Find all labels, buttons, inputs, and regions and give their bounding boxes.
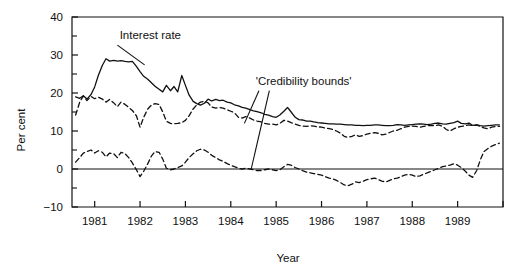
x-tick-label: 1984 [218, 215, 244, 227]
x-axis-title: Year [276, 252, 299, 264]
x-tick-label: 1989 [445, 215, 471, 227]
x-tick-label: 1983 [173, 215, 199, 227]
x-tick-label: 1985 [263, 215, 289, 227]
y-axis-tick-labels: −10010203040 [43, 11, 63, 213]
chart-container: −10010203040 198119821983198419851986198… [0, 0, 517, 270]
annotation-interest-rate: Interest rate [120, 29, 181, 41]
y-tick-label: 10 [50, 125, 63, 137]
y-tick-label: 40 [50, 11, 63, 23]
annotation-credibility-bounds: 'Credibility bounds' [256, 75, 352, 87]
x-tick-label: 1987 [354, 215, 380, 227]
x-tick-label: 1988 [399, 215, 425, 227]
interest-rate-credibility-bounds-chart: −10010203040 198119821983198419851986198… [0, 0, 517, 270]
plot-frame [72, 17, 503, 207]
x-axis-tick-labels: 198119821983198419851986198719881989 [82, 215, 471, 227]
y-tick-label: 0 [57, 163, 63, 175]
x-tick-label: 1981 [82, 215, 108, 227]
y-tick-label: −10 [43, 201, 63, 213]
x-tick-label: 1986 [309, 215, 335, 227]
y-tick-label: 20 [50, 87, 63, 99]
y-tick-label: 30 [50, 49, 63, 61]
y-axis-title: Per cent [15, 108, 27, 152]
x-tick-label: 1982 [127, 215, 153, 227]
